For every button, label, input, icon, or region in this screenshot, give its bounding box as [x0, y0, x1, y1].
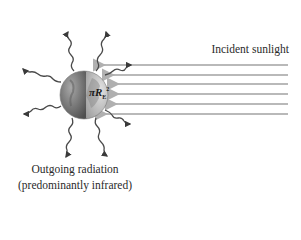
outgoing-radiation-label: Outgoing radiation (predominantly infrar… — [0, 161, 150, 193]
incident-sunlight-arrows — [104, 65, 288, 114]
globe-cross-section-label: πRE2 — [89, 86, 109, 100]
outgoing-radiation-line1: Outgoing radiation — [0, 161, 150, 177]
incident-sunlight-label: Incident sunlight — [211, 43, 289, 55]
outgoing-radiation-line2: (predominantly infrared) — [0, 177, 150, 193]
